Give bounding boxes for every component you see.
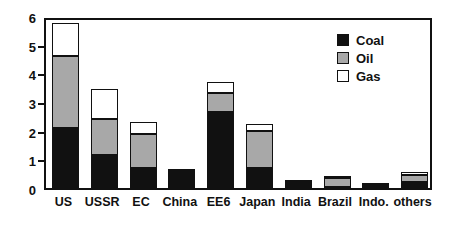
bar-segment-oil — [246, 131, 273, 168]
bar-ussr — [91, 16, 118, 188]
y-tick-label: 2 — [16, 126, 36, 139]
y-tick-label: 3 — [16, 98, 36, 111]
y-tick-label: 1 — [16, 155, 36, 168]
bar-segment-coal — [285, 184, 312, 188]
x-tick-label: Brazil — [316, 196, 355, 209]
legend-swatch-icon — [337, 70, 349, 82]
y-tick-mark — [38, 74, 44, 76]
x-tick-label: EE6 — [199, 196, 238, 209]
x-tick-label: others — [393, 196, 432, 209]
bar-segment-oil — [401, 175, 428, 182]
x-tick-label: India — [277, 196, 316, 209]
bar-segment-oil — [91, 119, 118, 155]
x-tick-label: Japan — [238, 196, 277, 209]
bar-segment-oil — [324, 178, 351, 187]
legend-item: Coal — [337, 32, 384, 48]
bar-others — [401, 16, 428, 188]
legend-item: Oil — [337, 50, 384, 66]
y-tick-label: 5 — [16, 40, 36, 53]
bar-segment-gas — [285, 180, 312, 182]
bar-china — [168, 16, 195, 188]
x-tick-label: Indo. — [354, 196, 393, 209]
x-tick-label: EC — [122, 196, 161, 209]
legend-swatch-icon — [337, 52, 349, 64]
bar-india — [285, 16, 312, 188]
bar-segment-oil — [130, 134, 157, 168]
bar-segment-gas — [52, 23, 79, 56]
legend-swatch-icon — [337, 34, 349, 46]
legend-label: Gas — [356, 70, 381, 83]
bar-segment-gas — [362, 183, 389, 185]
y-tick-mark — [38, 160, 44, 162]
y-tick-label: 4 — [16, 69, 36, 82]
bar-us — [52, 16, 79, 188]
bar-segment-coal — [207, 112, 234, 188]
bar-segment-coal — [168, 172, 195, 188]
bar-segment-coal — [401, 182, 428, 188]
x-tick-label: USSR — [83, 196, 122, 209]
bar-segment-gas — [246, 124, 273, 131]
bar-chart: CoalOilGas 0123456USUSSRECChinaEE6JapanI… — [0, 0, 451, 230]
y-tick-mark — [38, 132, 44, 134]
bar-segment-gas — [91, 89, 118, 119]
bar-segment-gas — [168, 169, 195, 171]
bar-segment-gas — [130, 122, 157, 133]
bar-japan — [246, 16, 273, 188]
bar-segment-oil — [207, 93, 234, 112]
bar-segment-oil — [362, 185, 389, 188]
y-tick-mark — [38, 103, 44, 105]
bar-segment-coal — [246, 168, 273, 188]
y-tick-label: 6 — [16, 12, 36, 25]
bar-ec — [130, 16, 157, 188]
y-tick-label: 0 — [16, 184, 36, 197]
legend-label: Coal — [356, 34, 384, 47]
x-tick-label: China — [160, 196, 199, 209]
bar-segment-gas — [324, 176, 351, 178]
legend-label: Oil — [356, 52, 373, 65]
bar-segment-coal — [91, 155, 118, 188]
y-tick-mark — [38, 46, 44, 48]
bar-segment-gas — [207, 82, 234, 93]
legend-item: Gas — [337, 68, 384, 84]
legend: CoalOilGas — [337, 32, 384, 86]
bar-segment-coal — [52, 128, 79, 188]
bar-ee6 — [207, 16, 234, 188]
bar-segment-gas — [401, 172, 428, 175]
x-tick-label: US — [44, 196, 83, 209]
bar-segment-oil — [52, 56, 79, 128]
bar-segment-coal — [130, 168, 157, 188]
